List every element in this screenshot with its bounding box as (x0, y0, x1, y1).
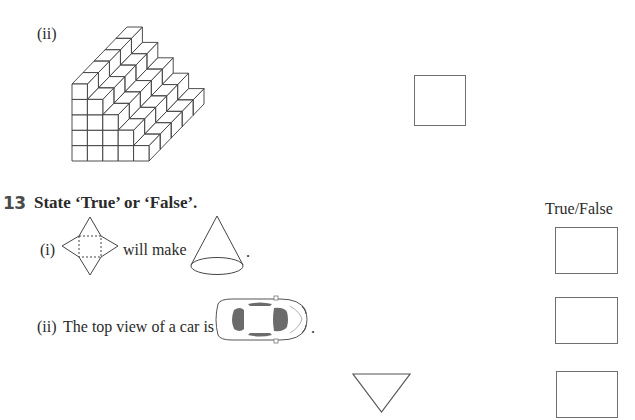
answer-box-part-ii[interactable] (414, 75, 466, 126)
item-ii-period: . (311, 320, 315, 336)
item-ii-text: The top view of a car is (63, 319, 214, 335)
answer-box-item-ii[interactable] (555, 297, 618, 344)
staircase-cube-stack-figure (0, 0, 220, 170)
answer-box-item-i[interactable] (555, 227, 618, 274)
item-i-period: . (246, 244, 250, 260)
item-ii-label: (ii) (37, 319, 57, 335)
true-false-column-header: True/False (545, 201, 613, 217)
question-number: 13 (3, 193, 26, 213)
inverted-triangle-icon (350, 370, 420, 420)
cone-icon (184, 210, 254, 280)
car-top-view-icon (210, 296, 310, 346)
item-i-middle-text: will make (123, 242, 187, 258)
answer-box-item-iii[interactable] (556, 371, 618, 418)
item-i-label: (i) (40, 242, 55, 258)
question-instruction: State ‘True’ or ‘False’. (34, 194, 197, 211)
square-pyramid-net-icon (58, 213, 128, 283)
